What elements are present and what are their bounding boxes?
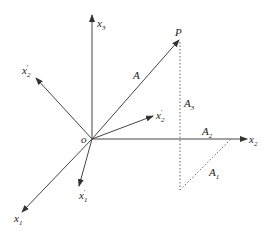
axis-x2-prime-upper-label: x2′ — [21, 63, 31, 79]
projection-A1 — [180, 139, 231, 190]
component-A3-label: A3 — [183, 97, 195, 112]
axis-x2-label: x2 — [248, 133, 258, 148]
coordinate-diagram: o P A x3 x2 x1 x2′ x2′ x1′ A3 A2 A1 — [0, 0, 270, 239]
vector-A-label: A — [132, 69, 140, 81]
axis-x1-label: x1 — [13, 212, 22, 227]
axis-x2-prime-label: x2′ — [155, 108, 165, 124]
vector-A — [92, 40, 179, 139]
component-A1-label: A1 — [208, 166, 219, 181]
origin-label: o — [81, 133, 87, 145]
axis-x1-prime-label: x1′ — [78, 188, 87, 204]
point-P-label: P — [174, 26, 182, 38]
component-A2-label: A2 — [201, 125, 213, 140]
axis-x3-label: x3 — [96, 17, 106, 32]
axis-x2-prime-upper — [36, 78, 92, 139]
axis-x2-prime — [92, 116, 153, 139]
